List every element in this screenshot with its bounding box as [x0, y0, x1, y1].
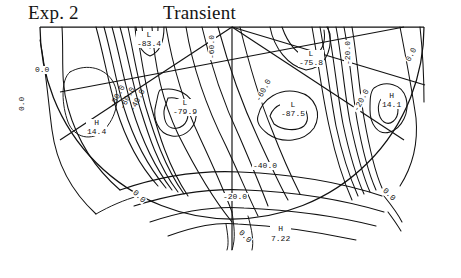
- extremum-value: -87.5: [281, 110, 305, 119]
- extremum-L-4: L -87.5: [280, 101, 306, 118]
- contour-plot-canvas: [0, 0, 461, 278]
- contour-label-1: 0.0: [18, 96, 26, 112]
- extremum-value: -75.8: [299, 59, 323, 68]
- contour-figure: Exp. 2 Transient: [0, 0, 461, 278]
- extremum-L-2: L -79.9: [172, 99, 198, 116]
- extremum-value: -83.4: [137, 40, 161, 49]
- contour-label-7: -40.0: [252, 162, 278, 170]
- extremum-type: H: [271, 224, 290, 234]
- extremum-H-3: H 7.22: [270, 224, 291, 243]
- radial-reference-lines: [60, 27, 425, 250]
- contour-label-4: -20.0: [344, 40, 352, 66]
- contour-label-8: -20.0: [222, 193, 248, 201]
- extremum-L-3: L -75.8: [298, 50, 324, 67]
- contour-label-2: -60.0: [208, 34, 216, 60]
- extremum-L-1: L -83.4: [136, 31, 162, 48]
- contour-label-0: 0.0: [34, 66, 50, 74]
- extremum-value: 14.4: [87, 128, 106, 137]
- extremum-value: 7.22: [271, 234, 290, 244]
- extremum-value: 14.1: [382, 101, 401, 110]
- extremum-H-1: H 14.4: [86, 119, 107, 136]
- extremum-H-2: H 14.1: [381, 92, 402, 109]
- extremum-value: -79.9: [173, 108, 197, 117]
